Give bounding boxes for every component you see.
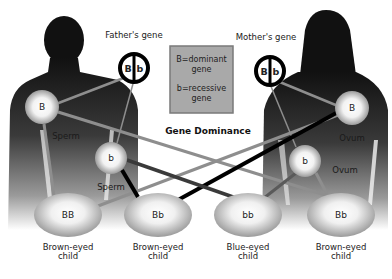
diagram-title: Gene Dominance xyxy=(165,126,251,136)
child-3: bb Blue-eyed child xyxy=(214,193,282,261)
father-allele-1: B xyxy=(124,63,131,74)
ovum-b-allele: b xyxy=(302,156,308,166)
legend-recessive-gene: gene xyxy=(192,94,212,103)
child-1-label-line2: child xyxy=(58,251,78,261)
child-4-genotype: Bb xyxy=(335,210,347,220)
father-allele-2: b xyxy=(137,63,144,74)
ovum-B-allele: B xyxy=(349,103,355,113)
legend-dominant-gene: gene xyxy=(192,65,212,74)
sperm-B-label: Sperm xyxy=(52,131,80,141)
sperm-b-allele: b xyxy=(108,153,114,163)
ovum-b-label: Ovum xyxy=(332,165,357,175)
child-3-label-line2: child xyxy=(238,251,258,261)
mother-gene: Mother's gene B b xyxy=(236,32,297,85)
legend-box: B=dominant gene b=recessive gene xyxy=(170,46,233,113)
child-4-label-line2: child xyxy=(331,251,351,261)
child-1: BB Brown-eyed child xyxy=(34,193,102,261)
ovum-B-label: Ovum xyxy=(339,133,364,143)
father-gene: Father's gene B b xyxy=(105,30,162,82)
mother-gene-label: Mother's gene xyxy=(236,32,297,42)
child-3-genotype: bb xyxy=(242,210,254,220)
sperm-B-allele: B xyxy=(39,102,45,112)
gene-dominance-diagram: Father's gene B b Mother's gene B b B=do… xyxy=(0,0,392,279)
father-gene-label: Father's gene xyxy=(105,30,162,40)
mother-allele-1: B xyxy=(260,66,267,77)
mother-allele-2: b xyxy=(273,66,280,77)
child-1-genotype: BB xyxy=(62,210,74,220)
sperm-b: b Sperm xyxy=(95,142,127,192)
child-2-genotype: Bb xyxy=(152,210,164,220)
child-2-label-line2: child xyxy=(148,251,168,261)
child-4: Bb Brown-eyed child xyxy=(307,193,375,261)
child-2: Bb Brown-eyed child xyxy=(124,193,192,261)
ovum-B: B Ovum xyxy=(335,91,369,143)
sperm-b-label: Sperm xyxy=(97,182,125,192)
legend-dominant: B=dominant xyxy=(176,55,226,64)
legend-recessive: b=recessive xyxy=(177,84,226,93)
